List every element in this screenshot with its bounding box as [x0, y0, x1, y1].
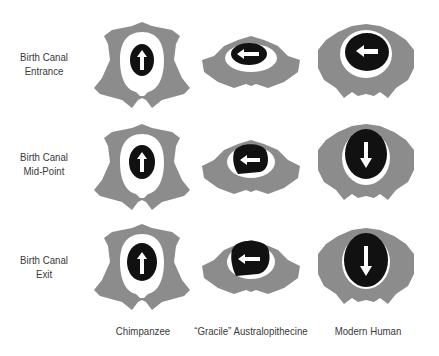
chimpanzee-pelvis-midpoint [92, 122, 192, 214]
row-label-line2: Mid-Point [12, 164, 75, 178]
column-label-modern-human: Modern Human [333, 325, 403, 337]
human-pelvis-midpoint [316, 120, 416, 206]
row-label-line2: Exit [12, 267, 75, 281]
row-label-exit: Birth Canal Exit [12, 253, 75, 281]
row-label-midpoint: Birth Canal Mid-Point [12, 150, 75, 178]
row-label-line1: Birth Canal [12, 50, 75, 64]
australopithecine-pelvis-entrance [198, 32, 304, 92]
column-label-chimpanzee: Chimpanzee [112, 325, 174, 337]
row-label-entrance: Birth Canal Entrance [12, 50, 75, 78]
human-pelvis-entrance [316, 20, 416, 104]
australopithecine-pelvis-midpoint [198, 134, 304, 198]
chimpanzee-pelvis-exit [92, 222, 192, 314]
column-label-australopithecine: “Gracile” Australopithecine [194, 325, 308, 337]
row-label-line2: Entrance [12, 64, 75, 78]
row-label-line1: Birth Canal [12, 150, 75, 164]
australopithecine-pelvis-exit [198, 232, 304, 298]
row-label-line1: Birth Canal [12, 253, 75, 267]
human-pelvis-exit [316, 224, 416, 310]
chimpanzee-pelvis-entrance [92, 20, 192, 112]
